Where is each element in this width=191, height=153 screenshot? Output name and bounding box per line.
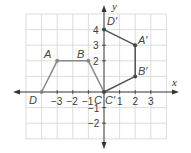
y-axis-up-arrow-icon: [102, 5, 107, 12]
y-tick-label: 2: [93, 56, 99, 67]
label-c: C: [94, 94, 102, 106]
x-axis-right-arrow-icon: [172, 90, 179, 95]
label-b-prime: B′: [138, 65, 148, 77]
vertex-b-prime: [133, 74, 137, 78]
label-a: A: [43, 48, 51, 60]
x-tick-label: −3: [51, 96, 63, 107]
vertex-d-prime: [102, 28, 106, 32]
y-tick-label: 3: [93, 40, 99, 51]
x-tick-label: 1: [117, 96, 123, 107]
x-tick-label: 2: [133, 96, 139, 107]
coordinate-plane: x y −3 −2 −1 1 2 3 4 3 2 −1 −2 A B C D D…: [0, 0, 191, 153]
x-axis-left-arrow-icon: [13, 90, 20, 95]
label-c-prime: C′: [105, 94, 116, 106]
y-tick-label: −2: [88, 118, 100, 129]
x-axis-label: x: [171, 76, 177, 88]
label-d: D: [29, 94, 37, 106]
y-axis-label: y: [111, 0, 117, 12]
label-b: B: [77, 48, 84, 60]
vertex-a: [55, 59, 59, 63]
vertex-b: [86, 59, 90, 63]
vertex-a-prime: [133, 43, 137, 47]
x-tick-label: 3: [148, 96, 154, 107]
y-axis-down-arrow-icon: [102, 142, 107, 149]
label-d-prime: D′: [107, 15, 118, 27]
x-tick-label: −2: [67, 96, 79, 107]
y-axis: [102, 5, 107, 149]
vertex-d: [40, 90, 44, 94]
label-a-prime: A′: [137, 34, 148, 46]
y-tick-label: 4: [93, 25, 99, 36]
